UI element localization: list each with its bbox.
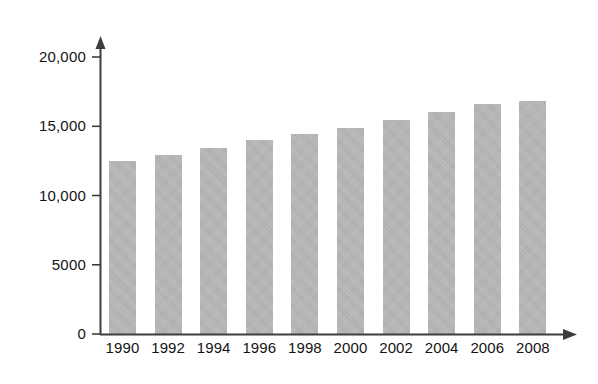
y-axis-labels: 0500010,00015,00020,000 (14, 0, 86, 384)
bar (246, 140, 273, 334)
bar-chart: 0500010,00015,00020,000 1990199219941996… (0, 0, 598, 384)
bar (519, 101, 546, 334)
bar (155, 155, 182, 334)
bar (291, 134, 318, 334)
bar (337, 128, 364, 334)
y-tick-label: 10,000 (39, 188, 86, 203)
x-tick-label: 2002 (371, 340, 421, 355)
bar (428, 112, 455, 334)
bar (383, 120, 410, 334)
x-tick-label: 2000 (326, 340, 376, 355)
bar (109, 161, 136, 334)
bar (200, 148, 227, 334)
x-tick-label: 1990 (98, 340, 148, 355)
x-tick-label: 2004 (417, 340, 467, 355)
y-tick-label: 20,000 (39, 49, 86, 64)
x-tick-label: 1998 (280, 340, 330, 355)
bar (474, 104, 501, 334)
plot-area: 0500010,00015,00020,000 1990199219941996… (0, 0, 598, 384)
x-tick-label: 2006 (462, 340, 512, 355)
y-tick-label: 15,000 (39, 118, 86, 133)
x-tick-label: 1994 (189, 340, 239, 355)
y-tick-label: 0 (77, 326, 86, 341)
x-tick-label: 2008 (508, 340, 558, 355)
y-tick-label: 5000 (52, 257, 86, 272)
bars-layer (0, 0, 598, 384)
x-tick-label: 1992 (143, 340, 193, 355)
x-tick-label: 1996 (234, 340, 284, 355)
